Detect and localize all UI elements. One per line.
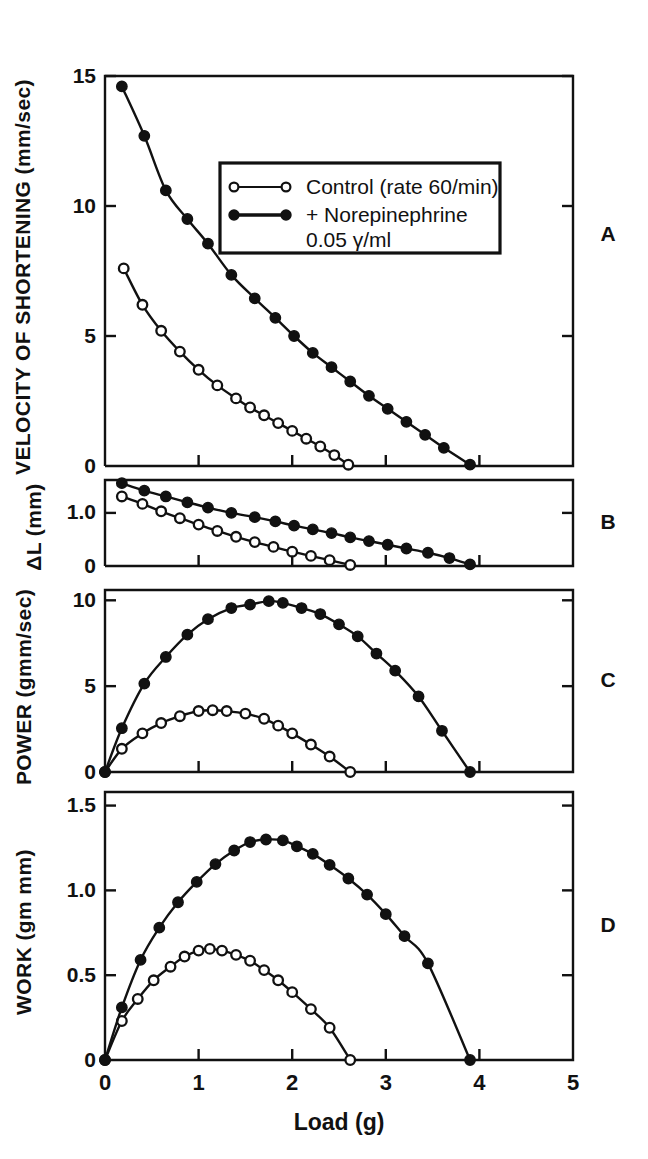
data-point-B-1-2 [161, 491, 171, 501]
data-point-D-1-16 [381, 909, 391, 919]
data-point-D-0-11 [259, 965, 269, 975]
data-point-C-0-6 [208, 705, 218, 715]
data-point-C-0-4 [175, 711, 185, 721]
data-point-D-1-18 [423, 958, 433, 968]
data-point-C-1-13 [353, 631, 363, 641]
data-point-B-0-9 [287, 547, 297, 557]
ytick-label-D-0: 0 [84, 1048, 96, 1071]
data-point-A-1-4 [203, 239, 213, 249]
data-point-C-1-11 [315, 609, 325, 619]
data-point-A-1-1 [139, 131, 149, 141]
data-point-B-1-17 [465, 559, 475, 569]
panel-letter-B: B [600, 510, 615, 533]
data-point-D-1-4 [173, 897, 183, 907]
data-point-B-1-7 [270, 516, 280, 526]
data-point-C-1-7 [245, 599, 255, 609]
data-point-D-0-4 [166, 962, 176, 972]
data-point-C-0-10 [273, 721, 283, 731]
data-point-D-1-10 [278, 835, 288, 845]
data-point-B-0-0 [117, 492, 127, 502]
xtick-label-3: 3 [380, 1070, 392, 1095]
panel-C: 0510 [73, 588, 573, 783]
data-point-D-1-1 [117, 1002, 127, 1012]
data-point-C-0-2 [138, 729, 148, 739]
data-point-D-0-14 [306, 1004, 316, 1014]
data-point-C-1-2 [139, 678, 149, 688]
data-point-A-0-14 [344, 460, 354, 470]
data-point-C-0-12 [306, 740, 316, 750]
data-point-B-0-5 [213, 526, 223, 536]
legend-label-1: + Norepinephrine [306, 203, 468, 226]
data-point-C-0-8 [241, 709, 251, 719]
data-point-D-1-11 [292, 841, 302, 851]
panel-B: 01.0 [67, 478, 573, 577]
data-point-C-1-15 [390, 666, 400, 676]
data-point-B-1-4 [203, 502, 213, 512]
ytick-label-A-3: 15 [73, 64, 97, 87]
ytick-label-A-1: 5 [84, 324, 96, 347]
legend-label-2: 0.05 γ/ml [306, 228, 391, 251]
data-point-C-0-3 [156, 718, 166, 728]
data-point-A-0-4 [194, 365, 204, 375]
panel-frame-A [105, 76, 573, 466]
ytick-label-A-0: 0 [84, 454, 96, 477]
ylabel-D: WORK (gm mm) [12, 849, 35, 1015]
data-point-A-0-0 [119, 264, 129, 274]
data-point-D-0-16 [345, 1055, 355, 1065]
data-point-D-1-15 [362, 889, 372, 899]
data-point-A-1-11 [345, 376, 355, 386]
xtick-label-4: 4 [473, 1070, 486, 1095]
data-point-A-1-5 [226, 270, 236, 280]
data-point-A-0-5 [213, 381, 223, 391]
data-point-B-1-6 [250, 512, 260, 522]
data-point-B-1-9 [308, 524, 318, 534]
series-line-D-1 [105, 839, 470, 1060]
ytick-label-D-3: 1.5 [67, 793, 97, 816]
data-point-D-1-17 [399, 931, 409, 941]
series-line-C-1 [105, 601, 470, 772]
data-point-D-0-6 [194, 946, 204, 956]
data-point-A-0-12 [315, 442, 325, 452]
data-point-C-0-1 [117, 744, 127, 754]
data-point-A-1-12 [364, 391, 374, 401]
data-point-A-1-13 [382, 404, 392, 414]
ytick-label-C-2: 10 [73, 588, 96, 611]
data-point-B-0-4 [194, 520, 204, 530]
data-point-B-1-14 [401, 543, 411, 553]
data-point-D-0-5 [180, 952, 190, 962]
data-point-C-0-11 [287, 729, 297, 739]
data-point-C-0-14 [345, 767, 355, 777]
data-point-A-1-16 [439, 443, 449, 453]
data-point-D-0-3 [149, 975, 159, 985]
data-point-B-1-11 [345, 532, 355, 542]
data-point-C-1-1 [117, 723, 127, 733]
data-point-D-1-13 [324, 860, 334, 870]
legend-marker-open-1 [282, 183, 291, 192]
data-point-D-1-12 [308, 849, 318, 859]
data-point-A-1-3 [182, 214, 192, 224]
data-point-A-1-7 [270, 313, 280, 323]
data-point-D-1-9 [261, 834, 271, 844]
data-point-D-1-8 [245, 837, 255, 847]
data-point-C-1-0 [100, 767, 110, 777]
data-point-A-1-6 [250, 293, 260, 303]
data-point-C-1-6 [226, 603, 236, 613]
data-point-A-1-9 [308, 348, 318, 358]
legend-marker-open-0 [230, 183, 239, 192]
data-point-C-1-16 [413, 691, 423, 701]
data-point-B-0-11 [325, 555, 335, 565]
data-point-A-1-2 [161, 185, 171, 195]
xtick-label-1: 1 [192, 1070, 204, 1095]
panel-frame-C [105, 590, 573, 772]
data-point-B-1-1 [139, 485, 149, 495]
data-point-B-1-0 [117, 478, 127, 488]
data-point-B-0-12 [345, 560, 355, 570]
data-point-A-1-10 [326, 362, 336, 372]
legend: Control (rate 60/min)+ Norepinephrine0.0… [220, 163, 500, 253]
data-point-C-1-5 [203, 614, 213, 624]
data-point-A-0-10 [287, 426, 297, 436]
data-point-B-0-7 [250, 537, 260, 547]
data-point-B-1-15 [423, 548, 433, 558]
data-point-C-1-18 [465, 767, 475, 777]
data-point-B-0-6 [231, 532, 241, 542]
